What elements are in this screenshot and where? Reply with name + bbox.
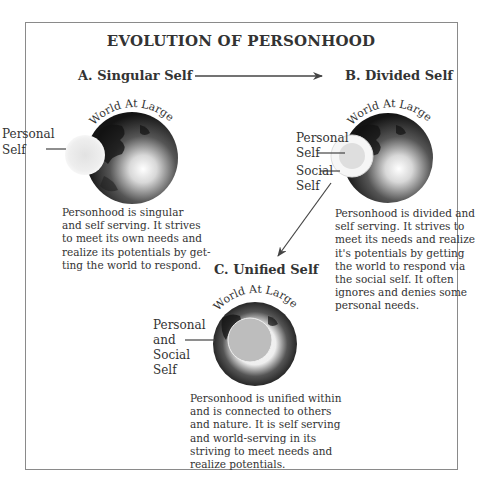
stage-b-social-label: Social [296,163,333,179]
stage-b-description: Personhood is divided and self serving. … [335,207,475,313]
globe-a [46,112,178,204]
stage-b-personal-label: Personal [296,130,348,146]
stage-c-description: Personhood is unified within and is conn… [190,392,341,471]
stage-b-heading: B. Divided Self [345,68,453,83]
stage-a-description: Personhood is singular and self serving.… [62,206,210,272]
stage-c-heading: C. Unified Self [214,262,318,277]
stage-a-self-label: Self [2,142,26,158]
stage-a-heading: A. Singular Self [78,68,192,83]
stage-b-social-self-label: Self [296,178,320,194]
stage-a-personal-label: Personal [2,126,54,142]
globe-b [317,113,433,203]
stage-c-label: Personal and Social Self [153,318,205,378]
stage-b-personal-self-label: Self [296,145,320,161]
